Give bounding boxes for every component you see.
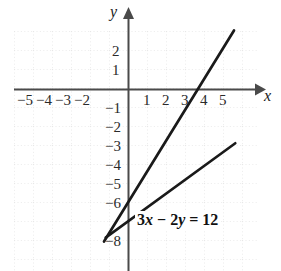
x-tick-label-2: 2 (162, 93, 170, 108)
x-tick-label-5: 5 (219, 93, 227, 108)
x-tick-label-3: 3 (181, 93, 189, 108)
equation-coef-x: 3 (137, 211, 145, 228)
graph-canvas (0, 0, 281, 271)
equation-constant: 12 (202, 211, 218, 228)
x-tick-label-neg5: −5 (17, 93, 33, 108)
y-tick-label-neg3: −3 (105, 139, 121, 154)
x-tick-label-neg3: −3 (55, 93, 71, 108)
equation-coef-y: 2 (170, 211, 178, 228)
y-tick-label-neg8: −8 (105, 234, 121, 249)
x-tick-label-4: 4 (200, 93, 208, 108)
y-tick-label-neg4: −4 (105, 158, 121, 173)
equation-equals: = (189, 211, 198, 228)
equation-var-x: x (145, 211, 153, 228)
grid-lines (14, 31, 257, 271)
y-tick-label-neg1: −1 (105, 101, 121, 116)
x-tick-label-neg2: −2 (74, 93, 90, 108)
equation-operator: − (157, 211, 166, 228)
x-axis-label: x (264, 88, 271, 104)
y-tick-label-neg6: −6 (105, 196, 121, 211)
x-tick-label-1: 1 (143, 93, 151, 108)
y-tick-label-2: 2 (112, 44, 120, 59)
y-tick-label-1: 1 (112, 63, 120, 78)
equation-var-y: y (178, 211, 185, 228)
y-tick-label-neg5: −5 (105, 177, 121, 192)
equation-annotation: 3x − 2y = 12 (135, 211, 220, 229)
coordinate-graph: y x −5 −4 −3 −2 1 2 3 4 5 2 1 −1 −2 −3 −… (0, 0, 281, 271)
y-axis-label: y (110, 4, 117, 20)
x-tick-label-neg4: −4 (36, 93, 52, 108)
y-tick-label-neg2: −2 (105, 120, 121, 135)
